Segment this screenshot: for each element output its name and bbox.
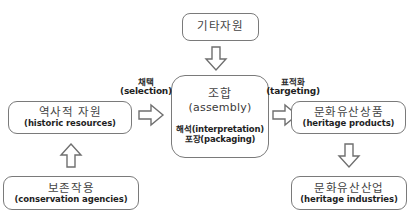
node-other-resources[interactable]: 기타자원 — [182, 13, 259, 41]
node-conservation-agencies[interactable]: 보존작용 (conservation agencies) — [3, 176, 139, 210]
node-assembly-sub-packaging: 포장(packaging) — [185, 135, 256, 145]
node-conservation-agencies-label-ko: 보존작용 — [48, 182, 94, 195]
node-heritage-industries[interactable]: 문화유산산업 (heritage industries) — [291, 176, 407, 210]
node-assembly-label-en: (assembly) — [189, 102, 252, 115]
node-heritage-industries-label-ko: 문화유산산업 — [314, 182, 384, 195]
edge-label-targeting: 표적화 (targeting) — [263, 78, 323, 97]
arrow-right-icon-selection — [138, 103, 166, 127]
edge-label-selection-en: (selection) — [118, 87, 174, 97]
arrow-down-icon-other-to-assembly — [204, 46, 228, 72]
node-assembly-label-ko: 조합 — [208, 88, 232, 102]
edge-label-targeting-en: (targeting) — [263, 87, 323, 97]
node-historic-resources-label-en: (historic resources) — [24, 119, 116, 129]
diagram-canvas: 기타자원 조합 (assembly) 해석(interpretation) 포장… — [0, 0, 415, 219]
node-assembly[interactable]: 조합 (assembly) 해석(interpretation) 포장(pack… — [171, 75, 269, 158]
node-other-resources-label-ko: 기타자원 — [197, 20, 243, 33]
arrow-up-icon-conservation-to-historic — [59, 143, 83, 169]
node-historic-resources[interactable]: 역사적 자원 (historic resources) — [8, 101, 132, 134]
node-heritage-industries-label-en: (heritage industries) — [300, 195, 397, 205]
node-conservation-agencies-label-en: (conservation agencies) — [15, 195, 128, 205]
arrow-down-icon-products-to-industries — [337, 143, 361, 169]
node-heritage-products[interactable]: 문화유산상품 (heritage products) — [291, 101, 406, 134]
node-heritage-products-label-en: (heritage products) — [303, 119, 395, 129]
edge-label-selection: 채택 (selection) — [118, 78, 174, 97]
